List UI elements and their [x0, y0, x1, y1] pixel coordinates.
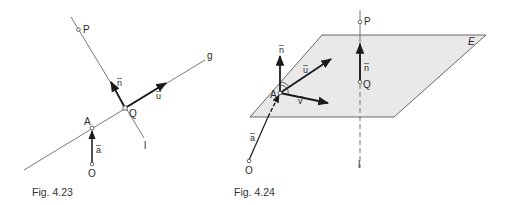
svg-text:u: u	[156, 91, 161, 101]
svg-text:n: n	[117, 78, 122, 88]
label-A: A	[84, 116, 91, 127]
caption-fig-4-24: Fig. 4.24	[234, 186, 275, 198]
svg-text:u: u	[303, 65, 308, 75]
point-Q	[358, 80, 362, 84]
point-P	[358, 20, 362, 24]
label-A: A	[270, 89, 277, 100]
point-O	[90, 162, 94, 166]
label-P: P	[364, 16, 371, 27]
label-Q: Q	[363, 79, 371, 90]
plane-E	[250, 35, 486, 117]
label-vector-a: a	[250, 133, 255, 143]
label-plane-E: E	[468, 36, 475, 47]
line-l	[71, 17, 144, 138]
label-g: g	[207, 50, 213, 61]
label-vector-n-at-Q: n	[364, 63, 369, 73]
figure-4-23: P Q A O g l n u a Fig. 4.23	[24, 17, 213, 198]
point-A	[278, 91, 282, 95]
point-Q	[123, 106, 127, 110]
svg-text:n: n	[279, 45, 284, 55]
svg-text:n: n	[364, 63, 369, 73]
label-vector-v: v	[298, 96, 303, 106]
figure-4-24: P Q A O l E n u v n a Fig. 4.24	[234, 10, 486, 198]
point-P	[77, 28, 81, 32]
label-P: P	[83, 24, 90, 35]
label-l: l	[144, 140, 146, 151]
svg-text:a: a	[250, 133, 255, 143]
label-vector-a: a	[96, 145, 101, 155]
label-vector-u: u	[303, 65, 308, 75]
label-vector-u: u	[156, 91, 161, 101]
svg-text:v: v	[298, 96, 303, 106]
label-vector-n-at-A: n	[279, 45, 284, 55]
point-O	[247, 159, 251, 163]
svg-text:a: a	[96, 145, 101, 155]
label-O: O	[88, 168, 96, 179]
diagram-canvas: P Q A O g l n u a Fig. 4.23	[0, 0, 511, 205]
caption-fig-4-23: Fig. 4.23	[32, 186, 73, 198]
label-vector-n: n	[117, 78, 122, 88]
label-l: l	[358, 159, 360, 170]
label-O: O	[245, 165, 253, 176]
line-g	[24, 60, 205, 170]
label-Q: Q	[129, 108, 137, 119]
